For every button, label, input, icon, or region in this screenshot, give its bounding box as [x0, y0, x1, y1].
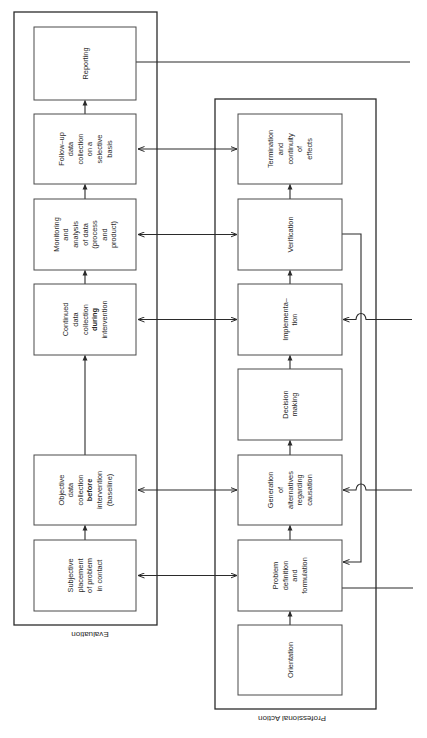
box-label-line: formulation: [300, 557, 309, 594]
box-label-line: Reporting: [81, 47, 90, 79]
box-label-line: intervention: [100, 300, 109, 338]
box-label-line: of problem: [85, 558, 94, 593]
box-label: Reporting: [81, 47, 90, 79]
box-label-line: collection: [76, 475, 85, 506]
box-label-line: in contact: [95, 560, 104, 592]
box-label-line: and: [290, 569, 299, 581]
process-boxes: ReportingFollow–updatacollectionon asele…: [34, 27, 342, 695]
box-label-line: of: [276, 486, 285, 493]
box-label-line: definition: [281, 561, 290, 591]
box-label-line: (process: [90, 220, 99, 249]
box-label-line: basis: [105, 140, 114, 158]
box-label-line: data: [71, 311, 80, 326]
box-label-line: selective: [95, 135, 104, 164]
box-label-line: and: [61, 228, 70, 240]
box-label-line: effects: [305, 138, 314, 160]
evaluation-box-continued: Continueddatacollectionduringinterventio…: [34, 284, 136, 355]
box-label-line: data: [66, 141, 75, 156]
external-input-line: [343, 484, 412, 490]
evaluation-box-reporting: Reporting: [34, 27, 136, 100]
professional-box-generation: Generationofalternativesregardingcausati…: [238, 455, 342, 525]
box-label-line: of data: [81, 222, 90, 245]
box-label-line: making: [290, 393, 299, 417]
box-label-line: collection: [76, 134, 85, 165]
box-label-line: of: [295, 145, 304, 152]
box-label-line: Termination: [266, 130, 275, 168]
external-input-line: [343, 314, 412, 320]
box-label: Decisionmaking: [281, 390, 300, 418]
box-label-line: product): [109, 221, 118, 248]
evaluation-box-follow-up: Follow–updatacollectionon aselectivebasi…: [34, 114, 136, 184]
professional-box-decision: Decisionmaking: [238, 369, 342, 440]
box-label-line: causation: [305, 474, 314, 506]
box-label-line: Verification: [286, 216, 295, 252]
box-label-line: (baseline): [105, 474, 114, 506]
box-label-line: collection: [81, 304, 90, 335]
box-label-line: Problem: [271, 562, 280, 590]
box-label-line: Orientation: [286, 642, 295, 678]
flow-diagram: Evaluation Professional Action Reporting…: [0, 0, 427, 738]
box-label-line: Implementa–: [281, 297, 290, 341]
evaluation-box-monitoring: Monitoringandanalysisof data(processandp…: [34, 199, 136, 270]
box-label: Orientation: [286, 642, 295, 678]
box-label-line: intervention: [95, 471, 104, 509]
box-label: Subjectiveplacementof problemin contact: [66, 558, 104, 593]
box-label-line: Generation: [266, 472, 275, 509]
box-label-line: Follow–up: [57, 132, 66, 166]
box-label-line: and: [100, 228, 109, 240]
evaluation-frame-label: Evaluation: [71, 630, 108, 639]
box-label-line: before: [85, 479, 94, 502]
box-label-line: Decision: [281, 390, 290, 418]
box-label-line: tion: [290, 314, 299, 326]
box-label: Continueddatacollectionduringinterventio…: [61, 300, 108, 338]
professional-box-problem-definition: Problemdefinitionandformulation: [238, 540, 342, 611]
box-label-line: regarding: [295, 474, 304, 505]
box-label-line: during: [90, 308, 99, 331]
professional-box-orientation: Orientation: [238, 625, 342, 695]
box-label-line: continuity: [286, 133, 295, 165]
professional-box-termination: Terminationandcontinuityofeffects: [238, 114, 342, 184]
box-label-line: Continued: [61, 303, 70, 337]
box-label-line: Monitoring: [52, 217, 61, 252]
box-label: Generationofalternativesregardingcausati…: [266, 471, 313, 509]
box-label: Verification: [286, 216, 295, 252]
professional-box-implementation: Implementa–tion: [238, 284, 342, 355]
evaluation-box-objective: Objectivedatacollectionbeforeinterventio…: [34, 455, 136, 525]
box-label-line: alternatives: [286, 471, 295, 509]
feedback-loop-line: [342, 234, 361, 562]
box-label-line: and: [276, 143, 285, 155]
box-label-line: data: [66, 482, 75, 497]
box-label-line: Subjective: [66, 558, 75, 592]
box-label-line: on a: [85, 141, 94, 156]
box-label-line: analysis: [71, 221, 80, 248]
professional-box-verification: Verification: [238, 199, 342, 270]
box-label-line: placement: [76, 558, 85, 592]
evaluation-box-subjective: Subjectiveplacementof problemin contact: [34, 540, 136, 611]
professional-action-frame-label: Professional Action: [258, 714, 326, 723]
box-label-line: Objective: [57, 475, 66, 506]
